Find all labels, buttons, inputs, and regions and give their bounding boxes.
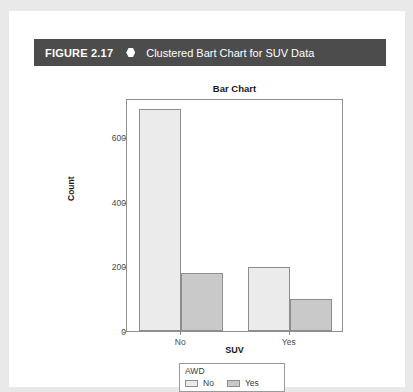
y-tick-label: 400	[100, 198, 126, 208]
bar	[248, 267, 290, 331]
x-axis-title: SUV	[126, 345, 343, 355]
legend: AWD NoYes	[179, 363, 285, 392]
legend-item: Yes	[227, 378, 259, 388]
bar	[290, 299, 332, 331]
figure-number-label: FIGURE 2.17	[45, 47, 113, 59]
legend-items: NoYes	[185, 378, 279, 388]
x-tick-mark	[180, 332, 181, 335]
y-tick-label: 0	[100, 327, 126, 337]
y-axis-title: Count	[66, 176, 76, 201]
legend-title: AWD	[185, 366, 279, 376]
chart-title: Bar Chart	[126, 83, 343, 94]
x-tick-mark	[289, 332, 290, 335]
y-axis: 0200400600	[94, 99, 126, 333]
legend-swatch	[185, 380, 198, 387]
bar	[181, 273, 223, 331]
figure-panel: FIGURE 2.17 Clustered Bart Chart for SUV…	[9, 11, 405, 387]
plot-area	[127, 100, 342, 331]
figure-header-bar: FIGURE 2.17 Clustered Bart Chart for SUV…	[34, 39, 386, 66]
legend-label: No	[203, 378, 214, 388]
legend-label: Yes	[245, 378, 259, 388]
plot-frame	[126, 99, 343, 332]
figure-caption-text: Clustered Bart Chart for SUV Data	[146, 47, 314, 59]
legend-item: No	[185, 378, 214, 388]
y-tick-label: 600	[100, 133, 126, 143]
legend-swatch	[227, 380, 240, 387]
bar	[139, 109, 181, 331]
hexagon-bullet-icon	[126, 48, 135, 57]
y-tick-label: 200	[100, 262, 126, 272]
